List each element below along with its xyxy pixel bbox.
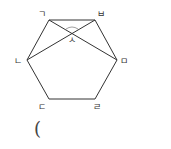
vertex-label-m: ㅁ	[120, 56, 128, 66]
vertex-label-g: ㄱ	[38, 9, 46, 19]
angle-arc	[66, 27, 78, 29]
vertex-label-b: ㅂ	[97, 9, 105, 19]
vertex-label-d: ㄷ	[38, 102, 46, 112]
diagonal-n-b	[27, 20, 95, 60]
diagonal-g-m	[49, 20, 117, 60]
vertex-label-r: ㄹ	[93, 102, 101, 112]
intersection-label-s: ㅅ	[68, 35, 76, 45]
hexagon-outline	[27, 20, 117, 99]
vertex-label-n: ㄴ	[14, 56, 22, 66]
hexagon-diagram: ㄱ ㅂ ㅁ ㄹ ㄷ ㄴ ㅅ	[0, 0, 171, 149]
answer-blank-paren: (	[34, 120, 41, 138]
